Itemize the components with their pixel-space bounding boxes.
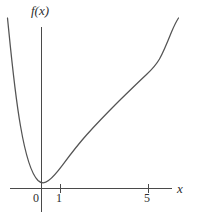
- y-axis-function-label: f(x): [31, 4, 49, 17]
- x-tick-label-1: 1: [56, 192, 62, 204]
- x-tick-label-5: 5: [144, 192, 150, 204]
- function-curve: [8, 18, 179, 183]
- function-graph-figure: f(x) x 0 1 5: [0, 0, 200, 220]
- x-tick-label-0: 0: [33, 192, 39, 204]
- plot-canvas: [0, 0, 200, 220]
- x-axis-variable-label: x: [177, 182, 183, 195]
